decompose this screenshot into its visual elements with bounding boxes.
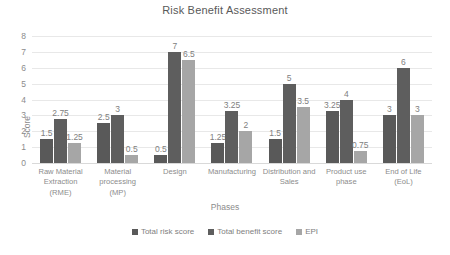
x-axis-category-line: Product use <box>319 167 374 177</box>
chart-title: Risk Benefit Assessment <box>0 4 450 16</box>
bar[interactable]: 3 <box>383 36 396 163</box>
bar-group: 1.553.5 <box>261 36 318 163</box>
legend-label: EPI <box>305 227 318 236</box>
x-axis-category-label: Raw MaterialExtraction(RME) <box>32 167 89 198</box>
y-axis-tick-label: 0 <box>12 159 26 168</box>
x-axis-category-label: End of Life (EoL) <box>375 167 432 198</box>
bar-group: 363 <box>375 36 432 163</box>
x-axis-category-line: Raw Material <box>33 167 88 177</box>
x-axis-category-label: Design <box>146 167 203 198</box>
bar[interactable]: 5 <box>283 36 296 163</box>
x-axis-title: Phases <box>0 202 450 212</box>
bar-fill <box>326 111 339 163</box>
bar[interactable]: 0.5 <box>154 36 167 163</box>
y-axis-tick-label: 8 <box>12 32 26 41</box>
bar[interactable]: 6.5 <box>182 36 195 163</box>
bar[interactable]: 0.75 <box>354 36 367 163</box>
bar[interactable]: 2.5 <box>97 36 110 163</box>
bar-value-label: 3.25 <box>224 101 241 110</box>
bar-group: 0.576.5 <box>146 36 203 163</box>
bar-group: 1.52.751.25 <box>32 36 89 163</box>
legend-label: Total risk score <box>141 227 194 236</box>
bar-fill <box>297 107 310 163</box>
y-axis-title: Score <box>22 116 32 138</box>
bar-fill <box>168 52 181 163</box>
y-axis-tick-label: 5 <box>12 79 26 88</box>
legend-item[interactable]: Total benefit score <box>208 227 282 236</box>
bar[interactable]: 1.5 <box>269 36 282 163</box>
bar[interactable]: 3.25 <box>225 36 238 163</box>
bar-value-label: 0.75 <box>352 141 369 150</box>
bar-value-label: 6.5 <box>183 50 195 59</box>
x-axis-category-label: Manufacturing <box>203 167 260 198</box>
bar-fill <box>54 119 67 163</box>
x-axis-category-line: phase <box>319 177 374 187</box>
bar[interactable]: 1.25 <box>68 36 81 163</box>
bar[interactable]: 3.25 <box>326 36 339 163</box>
bar-fill <box>211 143 224 163</box>
bar-fill <box>125 155 138 163</box>
bar-fill <box>411 115 424 163</box>
bar-fill <box>40 139 53 163</box>
y-axis-tick-label: 4 <box>12 95 26 104</box>
bar-value-label: 2 <box>244 121 249 130</box>
x-axis-category-line: Design <box>147 167 202 177</box>
bar[interactable]: 6 <box>397 36 410 163</box>
bar-value-label: 1.25 <box>66 133 83 142</box>
bar-fill <box>154 155 167 163</box>
y-axis-tick-label: 7 <box>12 48 26 57</box>
x-axis-category-label: Product usephase <box>318 167 375 198</box>
bar[interactable]: 1.5 <box>40 36 53 163</box>
bar-value-label: 1.5 <box>41 129 53 138</box>
legend-swatch-icon <box>296 229 302 235</box>
bar-value-label: 2.75 <box>52 109 69 118</box>
bar-fill <box>239 131 252 163</box>
bar-fill <box>225 111 238 163</box>
bar-group: 2.530.5 <box>89 36 146 163</box>
bar-fill <box>340 100 353 164</box>
legend-swatch-icon <box>208 229 214 235</box>
bar[interactable]: 0.5 <box>125 36 138 163</box>
bar-value-label: 2.5 <box>98 113 110 122</box>
bar-value-label: 0.5 <box>155 145 167 154</box>
bar[interactable]: 7 <box>168 36 181 163</box>
x-axis-category-line: Manufacturing <box>204 167 259 177</box>
bar[interactable]: 2.75 <box>54 36 67 163</box>
x-axis-category-line: Extraction <box>33 177 88 187</box>
legend-item[interactable]: EPI <box>296 227 318 236</box>
bar-fill <box>182 60 195 163</box>
legend-item[interactable]: Total risk score <box>132 227 194 236</box>
bar-fill <box>283 84 296 163</box>
bar[interactable]: 4 <box>340 36 353 163</box>
bar-value-label: 3.25 <box>324 101 341 110</box>
bar[interactable]: 3 <box>411 36 424 163</box>
x-axis-category-line: (RME) <box>33 188 88 198</box>
bar-groups: 1.52.751.252.530.50.576.51.253.2521.553.… <box>32 36 432 163</box>
bar-value-label: 3.5 <box>297 97 309 106</box>
bar-value-label: 0.5 <box>126 145 138 154</box>
x-axis-category-line: End of Life (EoL) <box>376 167 431 188</box>
x-axis-category-line: Material <box>90 167 145 177</box>
bar-group: 1.253.252 <box>203 36 260 163</box>
bar-value-label: 3 <box>415 105 420 114</box>
bar-fill <box>383 115 396 163</box>
bar-value-label: 3 <box>115 105 120 114</box>
bar-group: 3.2540.75 <box>318 36 375 163</box>
gridline <box>32 163 432 164</box>
x-axis-category-label: Materialprocessing (MP) <box>89 167 146 198</box>
legend-label: Total benefit score <box>217 227 282 236</box>
bar-value-label: 5 <box>287 74 292 83</box>
bar-value-label: 6 <box>401 58 406 67</box>
bar[interactable]: 3.5 <box>297 36 310 163</box>
x-axis-category-labels: Raw MaterialExtraction(RME)Materialproce… <box>32 167 432 198</box>
bar[interactable]: 2 <box>239 36 252 163</box>
x-axis-category-line: Distribution and <box>262 167 317 177</box>
y-axis-tick-label: 6 <box>12 64 26 73</box>
y-axis-tick-label: 1 <box>12 143 26 152</box>
bar-fill <box>68 143 81 163</box>
bar[interactable]: 1.25 <box>211 36 224 163</box>
bar[interactable]: 3 <box>111 36 124 163</box>
bar-fill <box>269 139 282 163</box>
bar-fill <box>111 115 124 163</box>
bar-fill <box>354 151 367 163</box>
